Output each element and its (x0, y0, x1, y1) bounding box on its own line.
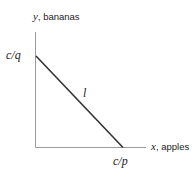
x-intercept-label: c/p (113, 154, 128, 169)
y-axis-label: y, bananas (33, 10, 80, 22)
x-axis-label: x, apples (151, 140, 189, 152)
budget-line-diagram: y, bananas c/q l c/p x, apples (0, 0, 193, 174)
y-axis-name: bananas (43, 11, 79, 22)
line-label: l (83, 86, 86, 101)
budget-line (36, 56, 123, 148)
x-axis-name: apples (161, 141, 189, 152)
y-intercept-label: c/q (6, 48, 21, 63)
